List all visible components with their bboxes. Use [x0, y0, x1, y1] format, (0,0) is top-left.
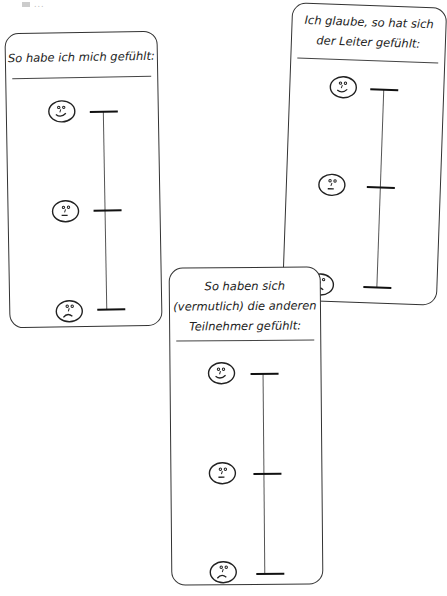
scale-tick-middle[interactable]: [253, 473, 281, 475]
divider: [297, 58, 438, 64]
card-title: Ich glaube, so hat sich der Leiter gefüh…: [292, 9, 446, 54]
scale-tick-top[interactable]: [251, 373, 279, 375]
card-title-line: So habe ich mich gefühlt:: [6, 46, 157, 69]
neutral-face-icon: [316, 172, 347, 197]
sad-face-icon: [208, 560, 238, 584]
card-leader-feeling: Ich glaube, so hat sich der Leiter gefüh…: [282, 2, 447, 305]
sad-face-icon: [54, 299, 84, 324]
caption-marker: [22, 2, 30, 7]
scale-tick-top[interactable]: [90, 110, 118, 112]
scale-tick-top[interactable]: [370, 88, 398, 91]
card-title: So haben sich (vermutlich) die anderen T…: [170, 275, 321, 336]
card-title-line: Teilnehmer gefühlt:: [170, 315, 320, 336]
happy-face-icon: [47, 99, 77, 124]
card-title-line: So haben sich: [170, 275, 320, 296]
card-title-line: (vermutlich) die anderen: [170, 295, 320, 316]
happy-face-icon: [328, 75, 359, 100]
neutral-face-icon: [207, 461, 237, 485]
caption-text: ...: [34, 0, 45, 9]
scale-tick-middle[interactable]: [367, 186, 395, 189]
divider: [176, 339, 314, 341]
scale-tick-bottom[interactable]: [97, 308, 125, 310]
card-self-feeling: So habe ich mich gefühlt:: [4, 31, 162, 329]
scale-tick-bottom[interactable]: [256, 573, 284, 575]
scale-tick-middle[interactable]: [94, 209, 122, 211]
top-caption: ...: [22, 0, 45, 9]
card-title: So habe ich mich gefühlt:: [6, 46, 157, 69]
scale-tick-bottom[interactable]: [363, 286, 391, 289]
divider: [12, 76, 151, 79]
neutral-face-icon: [50, 199, 80, 224]
happy-face-icon: [206, 361, 236, 385]
card-participants-feeling: So haben sich (vermutlich) die anderen T…: [169, 266, 324, 585]
